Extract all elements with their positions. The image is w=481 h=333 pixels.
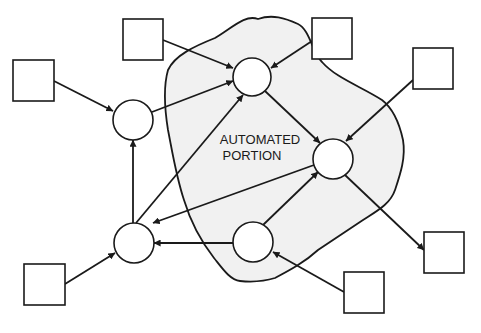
process-node-b (113, 100, 153, 140)
region-label-line1: AUTOMATED (220, 132, 300, 147)
process-node-c (313, 139, 353, 179)
process-node-e (233, 222, 273, 262)
region-label-line2: PORTION (223, 148, 282, 163)
process-node-d (114, 223, 154, 263)
external-box-1 (123, 19, 163, 60)
external-box-4 (413, 48, 453, 89)
automated-region (165, 17, 404, 282)
process-node-a (233, 58, 271, 96)
external-box-7 (344, 272, 384, 313)
external-box-5 (24, 264, 65, 305)
diagram-canvas: AUTOMATED PORTION (0, 0, 481, 333)
edge-x2-to-b (54, 81, 113, 111)
edge-x5-to-d (65, 253, 115, 284)
external-box-3 (312, 18, 352, 59)
external-box-2 (13, 60, 54, 101)
external-box-6 (424, 232, 464, 273)
